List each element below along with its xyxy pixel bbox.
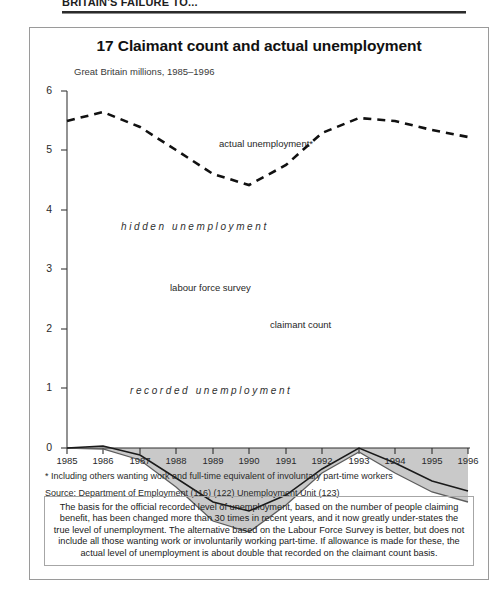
x-tick-label-1996: 1996 — [451, 455, 485, 466]
hidden-unemployment-label: hidden unemployment — [121, 221, 269, 232]
y-tick-label-1: 1 — [38, 381, 52, 393]
page-root: BRITAIN'S FAILURE TO... 17 Claimant coun… — [0, 0, 500, 593]
explanatory-note-text: The basis for the official recorded leve… — [52, 502, 466, 559]
y-tick-label-0: 0 — [38, 441, 52, 453]
actual-unemployment-label: actual unemployment* — [219, 138, 313, 149]
running-header-text: BRITAIN'S FAILURE TO... — [62, 0, 462, 8]
x-tick-label-1991: 1991 — [269, 455, 303, 466]
labour-force-survey-label: labour force survey — [170, 282, 251, 293]
running-header: BRITAIN'S FAILURE TO... — [62, 0, 462, 8]
claimant-count-label: claimant count — [270, 319, 331, 330]
x-axis-ticks — [67, 448, 468, 454]
x-tick-label-1985: 1985 — [50, 455, 84, 466]
figure-container: 17 Claimant count and actual unemploymen… — [29, 27, 489, 580]
x-tick-label-1990: 1990 — [232, 455, 266, 466]
recorded-unemployment-label: recorded unemployment — [130, 385, 292, 396]
x-tick-label-1989: 1989 — [196, 455, 230, 466]
x-tick-label-1986: 1986 — [86, 455, 120, 466]
y-tick-label-3: 3 — [38, 262, 52, 274]
y-tick-label-2: 2 — [38, 322, 52, 334]
x-tick-label-1994: 1994 — [378, 455, 412, 466]
figure-footnote: * Including others wanting work and full… — [45, 471, 393, 481]
x-tick-label-1988: 1988 — [159, 455, 193, 466]
y-tick-label-5: 5 — [38, 143, 52, 155]
header-rule — [62, 11, 466, 13]
explanatory-note-box: The basis for the official recorded leve… — [44, 496, 474, 566]
y-tick-label-4: 4 — [38, 203, 52, 215]
axis-units-label: Great Britain millions, 1985–1996 — [74, 66, 214, 77]
x-tick-label-1987: 1987 — [123, 455, 157, 466]
x-tick-label-1992: 1992 — [305, 455, 339, 466]
y-tick-label-6: 6 — [38, 84, 52, 96]
y-axis-ticks — [61, 91, 67, 448]
figure-title: 17 Claimant count and actual unemploymen… — [30, 37, 488, 55]
x-tick-label-1993: 1993 — [342, 455, 376, 466]
x-tick-label-1995: 1995 — [415, 455, 449, 466]
